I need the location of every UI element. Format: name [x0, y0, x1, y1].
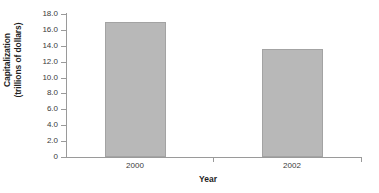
x-axis-title: Year — [173, 175, 243, 184]
x-axis-tick-label: 2002 — [257, 161, 327, 170]
x-axis-line — [66, 157, 362, 158]
y-axis-tick — [61, 157, 66, 158]
y-axis-tick-label: 6.0 — [47, 105, 58, 113]
y-axis-tick-label: 4.0 — [47, 121, 58, 129]
x-axis-tick-label: 2000 — [100, 161, 170, 170]
y-axis-tick — [61, 78, 66, 79]
y-axis-line — [66, 13, 67, 158]
y-axis-tick-label: 10.0 — [42, 74, 58, 82]
y-axis-tick-label: 18.0 — [42, 10, 58, 18]
y-axis-tick — [61, 30, 66, 31]
y-axis-tick — [61, 109, 66, 110]
y-axis-tick — [61, 14, 66, 15]
y-axis-tick — [61, 93, 66, 94]
y-axis-tick-label: 12.0 — [42, 58, 58, 66]
bar — [105, 22, 166, 157]
y-axis-tick — [61, 46, 66, 47]
y-axis-tick — [61, 62, 66, 63]
y-axis-tick-label: 16.0 — [42, 26, 58, 34]
y-axis-tick-label: 14.0 — [42, 42, 58, 50]
x-axis-end-tick — [361, 157, 362, 162]
y-axis-title-line-2: (trillions of dollars) — [13, 4, 24, 116]
y-axis-title-line-1: Capitalization — [2, 4, 13, 116]
y-axis-title: Capitalization (trillions of dollars) — [2, 4, 32, 116]
bar — [262, 49, 323, 157]
y-axis-tick-label: 8.0 — [47, 89, 58, 97]
y-axis-tick — [61, 125, 66, 126]
y-axis-tick-label: 2.0 — [47, 137, 58, 145]
x-axis-center-tick — [213, 157, 214, 162]
y-axis-tick — [61, 141, 66, 142]
bar-chart-figure: Capitalization (trillions of dollars) 18… — [0, 0, 379, 193]
y-axis-tick-label: 0 — [54, 153, 58, 161]
